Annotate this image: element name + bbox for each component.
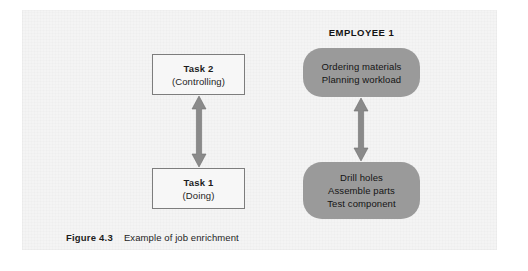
figure-card: Task 2 (Controlling) Task 1 (Doing) EMPL… [22, 10, 497, 250]
enrichment-box-planning: Ordering materials Planning workload [303, 48, 420, 97]
enrichment-line: Drill holes [340, 171, 383, 184]
figure-caption-label: Figure 4.3 [66, 232, 113, 243]
enrichment-line: Test component [327, 197, 395, 210]
enrichment-line: Assemble parts [328, 184, 395, 197]
employee-heading: EMPLOYEE 1 [303, 27, 420, 38]
double-headed-vertical-arrow-icon-right [351, 98, 371, 161]
figure-caption-text: Example of job enrichment [124, 232, 239, 243]
task-box-title: Task 2 [183, 62, 213, 75]
task-box-title: Task 1 [183, 176, 213, 189]
double-headed-vertical-arrow-icon-left [189, 96, 209, 167]
scan-grain-overlay [22, 10, 497, 250]
enrichment-line: Ordering materials [322, 60, 402, 73]
figure-page: Task 2 (Controlling) Task 1 (Doing) EMPL… [0, 0, 528, 271]
enrichment-line: Planning workload [322, 73, 401, 86]
task-box-doing: Task 1 (Doing) [152, 168, 245, 209]
enrichment-box-production: Drill holes Assemble parts Test componen… [303, 162, 420, 219]
task-box-subtitle: (Controlling) [172, 75, 225, 88]
task-box-subtitle: (Doing) [183, 189, 215, 202]
task-box-controlling: Task 2 (Controlling) [152, 54, 245, 95]
figure-caption: Figure 4.3Example of job enrichment [66, 227, 239, 245]
